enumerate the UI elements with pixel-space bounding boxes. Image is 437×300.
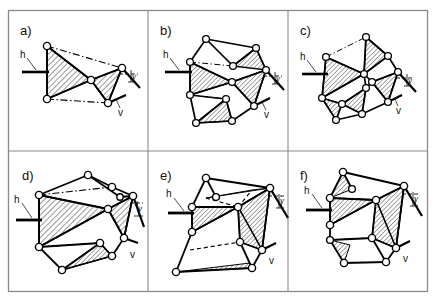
- figure-container: a) h γ: [0, 0, 437, 300]
- panel-a-label: a): [20, 23, 32, 38]
- panel-b-h-label: h: [163, 49, 169, 60]
- panel-f-v-label: v: [403, 253, 408, 264]
- panel-c-h-label: h: [300, 51, 306, 62]
- panel-c-label: c): [300, 23, 311, 38]
- panel-d-v-label: v: [130, 249, 135, 260]
- panel-a-v-label: v: [118, 107, 123, 118]
- panel-e-h-label: h: [166, 188, 172, 199]
- panel-a-h-label: h: [20, 49, 26, 60]
- panel-b-v-label: v: [264, 109, 269, 120]
- panel-c-v-label: v: [396, 105, 401, 116]
- panel-f-label: f): [300, 168, 308, 183]
- panel-b-label: b): [160, 23, 172, 38]
- panel-e-label: e): [160, 168, 172, 183]
- panel-f-h-label: h: [304, 185, 310, 196]
- panel-d-label: d): [22, 168, 34, 183]
- panel-e-v-label: v: [269, 255, 274, 266]
- panel-d-h-label: h: [14, 194, 20, 205]
